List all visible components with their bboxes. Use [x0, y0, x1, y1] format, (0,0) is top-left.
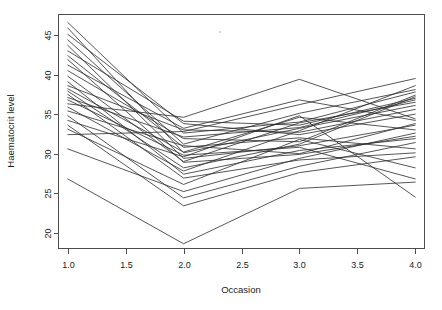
series-lines	[68, 22, 415, 243]
series-line	[68, 40, 415, 144]
chart-page: 1.01.52.02.53.03.54.0 202530354045 Occas…	[0, 0, 442, 310]
x-tick-label: 3.0	[293, 260, 306, 270]
x-tick-label: 1.5	[120, 260, 133, 270]
x-tick-label: 1.0	[62, 260, 75, 270]
spaghetti-plot: 1.01.52.02.53.03.54.0 202530354045 Occas…	[0, 0, 442, 310]
series-line	[68, 76, 415, 161]
y-tick-label: 45	[43, 30, 53, 40]
y-axis-title: Haematocrit level	[5, 94, 16, 167]
x-tick-label: 2.5	[236, 260, 249, 270]
series-line	[68, 116, 415, 198]
x-axis-title: Occasion	[221, 284, 261, 295]
y-tick-label: 25	[43, 188, 53, 198]
artifact-speck	[219, 31, 221, 33]
x-tick-label: 4.0	[409, 260, 422, 270]
x-axis-ticks: 1.01.52.02.53.03.54.0	[62, 249, 422, 270]
series-line	[68, 79, 415, 119]
series-line	[68, 179, 415, 244]
y-tick-label: 40	[43, 70, 53, 80]
x-tick-label: 3.5	[351, 260, 364, 270]
y-tick-label: 35	[43, 109, 53, 119]
y-tick-label: 20	[43, 228, 53, 238]
series-line	[68, 45, 415, 158]
y-axis-ticks: 202530354045	[43, 30, 59, 238]
x-tick-label: 2.0	[178, 260, 191, 270]
y-tick-label: 30	[43, 149, 53, 159]
